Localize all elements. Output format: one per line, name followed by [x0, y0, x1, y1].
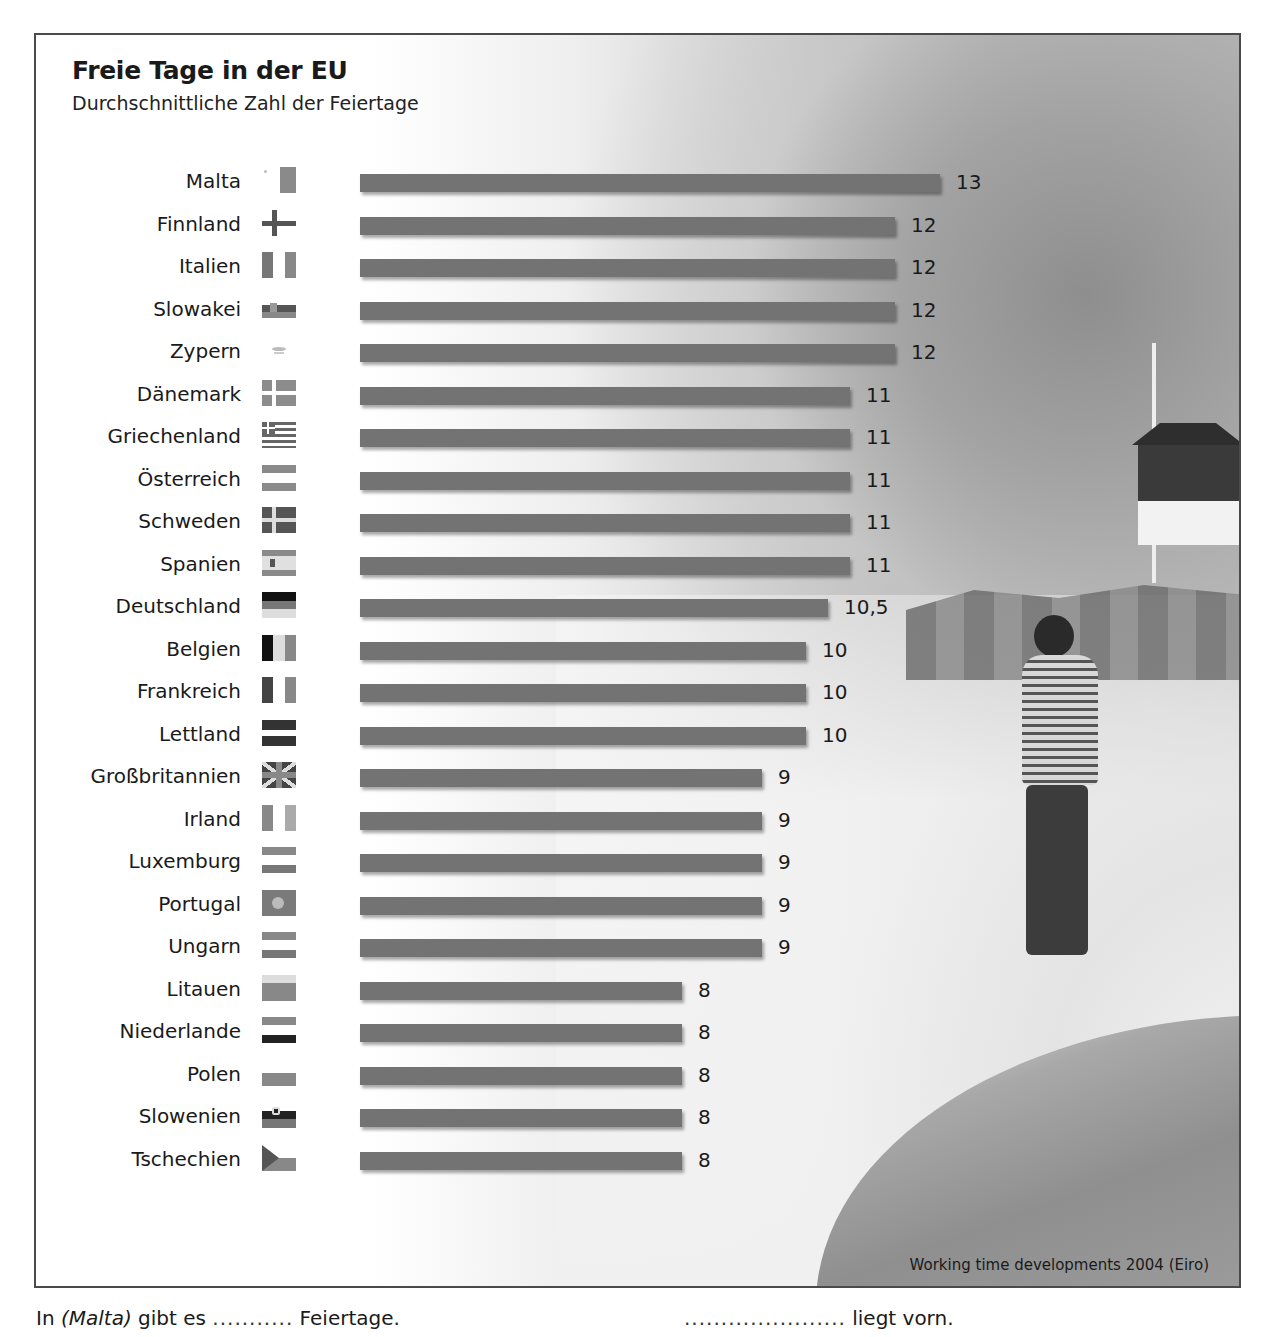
- country-label: Zypern: [170, 339, 241, 363]
- flag-finland-icon: [262, 210, 296, 236]
- bar-row-latvia: Lettland10: [36, 718, 1239, 760]
- exercise-suffix-2: liegt vorn.: [852, 1306, 953, 1330]
- bar: [360, 684, 806, 702]
- value-label: 12: [911, 213, 936, 237]
- flag-lithuania-icon: [262, 975, 296, 1001]
- flag-denmark-icon: [262, 380, 296, 406]
- bar: [360, 217, 895, 235]
- bar-row-luxembourg: Luxemburg9: [36, 845, 1239, 887]
- bar: [360, 302, 895, 320]
- bar-row-austria: Österreich11: [36, 463, 1239, 505]
- value-label: 9: [778, 850, 791, 874]
- flag-sweden-icon: [262, 507, 296, 533]
- bar-row-greece: Griechenland11: [36, 420, 1239, 462]
- flag-spain-icon: [262, 550, 296, 576]
- value-label: 10: [822, 723, 847, 747]
- bar: [360, 344, 895, 362]
- exercise-blank-1[interactable]: ...........: [212, 1306, 293, 1330]
- exercise-mid: gibt es: [138, 1306, 206, 1330]
- country-label: Frankreich: [137, 679, 241, 703]
- country-label: Slowakei: [153, 297, 241, 321]
- bar-row-malta: Malta13: [36, 165, 1239, 207]
- flag-slovenia-icon: [262, 1102, 296, 1128]
- country-label: Portugal: [158, 892, 241, 916]
- country-label: Griechenland: [108, 424, 241, 448]
- flag-portugal-icon: [262, 890, 296, 916]
- flag-luxembourg-icon: [262, 847, 296, 873]
- bar-row-czechia: Tschechien8: [36, 1143, 1239, 1185]
- flag-france-icon: [262, 677, 296, 703]
- flag-cyprus-icon: [262, 337, 296, 363]
- country-label: Italien: [179, 254, 241, 278]
- flag-slovakia-icon: [262, 295, 296, 321]
- bar: [360, 769, 762, 787]
- bar-row-poland: Polen8: [36, 1058, 1239, 1100]
- value-label: 9: [778, 808, 791, 832]
- bar: [360, 1067, 682, 1085]
- bar-row-netherlands: Niederlande8: [36, 1015, 1239, 1057]
- country-label: Malta: [186, 169, 241, 193]
- bar-row-slovenia: Slowenien8: [36, 1100, 1239, 1142]
- exercise-blank-2[interactable]: ......................: [684, 1306, 846, 1330]
- country-label: Ungarn: [168, 934, 241, 958]
- country-label: Finnland: [157, 212, 241, 236]
- country-label: Dänemark: [137, 382, 241, 406]
- bar-row-belgium: Belgien10: [36, 633, 1239, 675]
- country-label: Lettland: [159, 722, 241, 746]
- country-label: Niederlande: [119, 1019, 241, 1043]
- bar-row-france: Frankreich10: [36, 675, 1239, 717]
- value-label: 12: [911, 340, 936, 364]
- country-label: Schweden: [138, 509, 241, 533]
- bar-row-cyprus: Zypern12: [36, 335, 1239, 377]
- value-label: 10,5: [844, 595, 889, 619]
- flag-latvia-icon: [262, 720, 296, 746]
- flag-uk-icon: [262, 762, 296, 788]
- bar: [360, 642, 806, 660]
- value-label: 8: [698, 1105, 711, 1129]
- bar-row-finland: Finnland12: [36, 208, 1239, 250]
- bar: [360, 939, 762, 957]
- value-label: 10: [822, 638, 847, 662]
- bar-row-denmark: Dänemark11: [36, 378, 1239, 420]
- bar: [360, 557, 850, 575]
- bar: [360, 387, 850, 405]
- value-label: 13: [956, 170, 981, 194]
- bar: [360, 982, 682, 1000]
- exercise-country-hint: (Malta): [61, 1306, 132, 1330]
- flag-italy-icon: [262, 252, 296, 278]
- bar: [360, 259, 895, 277]
- bar-row-germany: Deutschland10,5: [36, 590, 1239, 632]
- bar: [360, 897, 762, 915]
- value-label: 9: [778, 935, 791, 959]
- bar: [360, 429, 850, 447]
- value-label: 9: [778, 765, 791, 789]
- bar-row-portugal: Portugal9: [36, 888, 1239, 930]
- bar-row-lithuania: Litauen8: [36, 973, 1239, 1015]
- flag-hungary-icon: [262, 932, 296, 958]
- exercise-sentence-1: In (Malta) gibt es ........... Feiertage…: [36, 1306, 400, 1330]
- country-label: Luxemburg: [129, 849, 241, 873]
- country-label: Spanien: [160, 552, 241, 576]
- value-label: 11: [866, 383, 891, 407]
- country-label: Litauen: [167, 977, 241, 1001]
- value-label: 8: [698, 1063, 711, 1087]
- country-label: Slowenien: [139, 1104, 241, 1128]
- flag-ireland-icon: [262, 805, 296, 831]
- bar: [360, 1109, 682, 1127]
- bar-row-spain: Spanien11: [36, 548, 1239, 590]
- country-label: Großbritannien: [90, 764, 241, 788]
- chart-subtitle: Durchschnittliche Zahl der Feiertage: [72, 92, 419, 114]
- country-label: Österreich: [138, 467, 242, 491]
- exercise-suffix: Feiertage.: [300, 1306, 400, 1330]
- value-label: 11: [866, 553, 891, 577]
- country-label: Tschechien: [131, 1147, 241, 1171]
- bar-row-uk: Großbritannien9: [36, 760, 1239, 802]
- bar: [360, 472, 850, 490]
- value-label: 11: [866, 468, 891, 492]
- country-label: Deutschland: [116, 594, 242, 618]
- value-label: 11: [866, 425, 891, 449]
- value-label: 12: [911, 298, 936, 322]
- value-label: 8: [698, 1148, 711, 1172]
- bar-row-slovakia: Slowakei12: [36, 293, 1239, 335]
- bar-row-hungary: Ungarn9: [36, 930, 1239, 972]
